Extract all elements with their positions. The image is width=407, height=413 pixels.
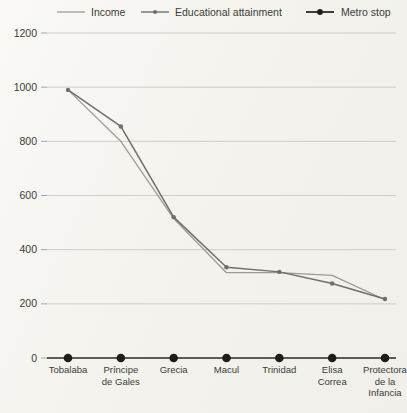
metro-stop-marker-1[interactable] bbox=[117, 354, 126, 363]
y-tick-label-800: 800 bbox=[19, 135, 37, 147]
x-tick-label-5: ElisaCorrea bbox=[318, 364, 348, 387]
data-point-educational-attainment-3[interactable] bbox=[224, 265, 228, 269]
data-point-educational-attainment-4[interactable] bbox=[277, 270, 281, 274]
chart-canvas: Income Educational attainment Metro stop… bbox=[0, 0, 407, 413]
y-tick-label-0: 0 bbox=[31, 352, 37, 364]
metro-stop-marker-6[interactable] bbox=[381, 354, 390, 363]
line-chart: Income Educational attainment Metro stop… bbox=[0, 0, 407, 413]
legend-item-income[interactable]: Income bbox=[57, 6, 126, 18]
y-tick-label-400: 400 bbox=[19, 243, 37, 255]
x-tick-label-2: Grecia bbox=[160, 364, 189, 375]
metro-stop-marker-0[interactable] bbox=[64, 354, 73, 363]
x-tick-label-4: Trinidad bbox=[262, 364, 296, 375]
y-tick-label-1000: 1000 bbox=[14, 81, 38, 93]
legend-marker-metro-stop bbox=[317, 9, 323, 15]
y-tick-label-600: 600 bbox=[19, 189, 37, 201]
metro-stop-marker-5[interactable] bbox=[328, 354, 337, 363]
legend-item-metro-stop[interactable]: Metro stop bbox=[306, 6, 391, 18]
chart-legend: Income Educational attainment Metro stop bbox=[57, 6, 391, 18]
legend-label-income: Income bbox=[91, 6, 126, 18]
chart-series-layer bbox=[66, 88, 387, 301]
metro-stop-marker-2[interactable] bbox=[169, 354, 178, 363]
y-axis-tick-labels: 120010008006004002000 bbox=[14, 27, 47, 364]
legend-label-educational-attainment: Educational attainment bbox=[175, 6, 282, 18]
legend-label-metro-stop: Metro stop bbox=[341, 6, 391, 18]
x-tick-label-1: Príncipede Gales bbox=[102, 364, 140, 387]
legend-item-educational-attainment[interactable]: Educational attainment bbox=[141, 6, 282, 18]
x-tick-label-6: Protectorade laInfancia bbox=[363, 364, 407, 398]
x-tick-label-3: Macul bbox=[214, 364, 239, 375]
data-point-educational-attainment-6[interactable] bbox=[383, 297, 387, 301]
data-point-educational-attainment-1[interactable] bbox=[119, 124, 123, 128]
x-tick-label-0: Tobalaba bbox=[49, 364, 88, 375]
y-tick-label-200: 200 bbox=[19, 297, 37, 309]
data-point-educational-attainment-0[interactable] bbox=[66, 88, 70, 92]
x-axis-tick-labels: TobalabaPríncipede GalesGreciaMaculTrini… bbox=[49, 364, 407, 398]
data-point-educational-attainment-5[interactable] bbox=[330, 281, 334, 285]
y-tick-label-1200: 1200 bbox=[14, 27, 38, 39]
legend-marker-educational-attainment bbox=[153, 10, 157, 14]
data-point-educational-attainment-2[interactable] bbox=[171, 215, 175, 219]
metro-stop-marker-3[interactable] bbox=[222, 354, 231, 363]
metro-stop-marker-4[interactable] bbox=[275, 354, 284, 363]
